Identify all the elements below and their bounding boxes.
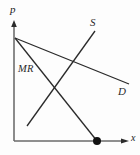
y-axis-arrow-icon	[11, 20, 17, 27]
economics-diagram: p x S D MR	[0, 0, 140, 155]
supply-curve-label: S	[90, 17, 96, 28]
demand-curve-label: D	[118, 86, 126, 97]
supply-curve	[27, 31, 95, 126]
x-axis-label: x	[131, 133, 135, 143]
y-axis-label: p	[10, 4, 16, 15]
monopoly-quantity-point	[93, 137, 101, 145]
x-axis-arrow-icon	[121, 138, 129, 143]
marginal-revenue-curve-label: MR	[18, 64, 34, 75]
demand-curve	[15, 38, 129, 84]
diagram-canvas	[0, 0, 140, 155]
